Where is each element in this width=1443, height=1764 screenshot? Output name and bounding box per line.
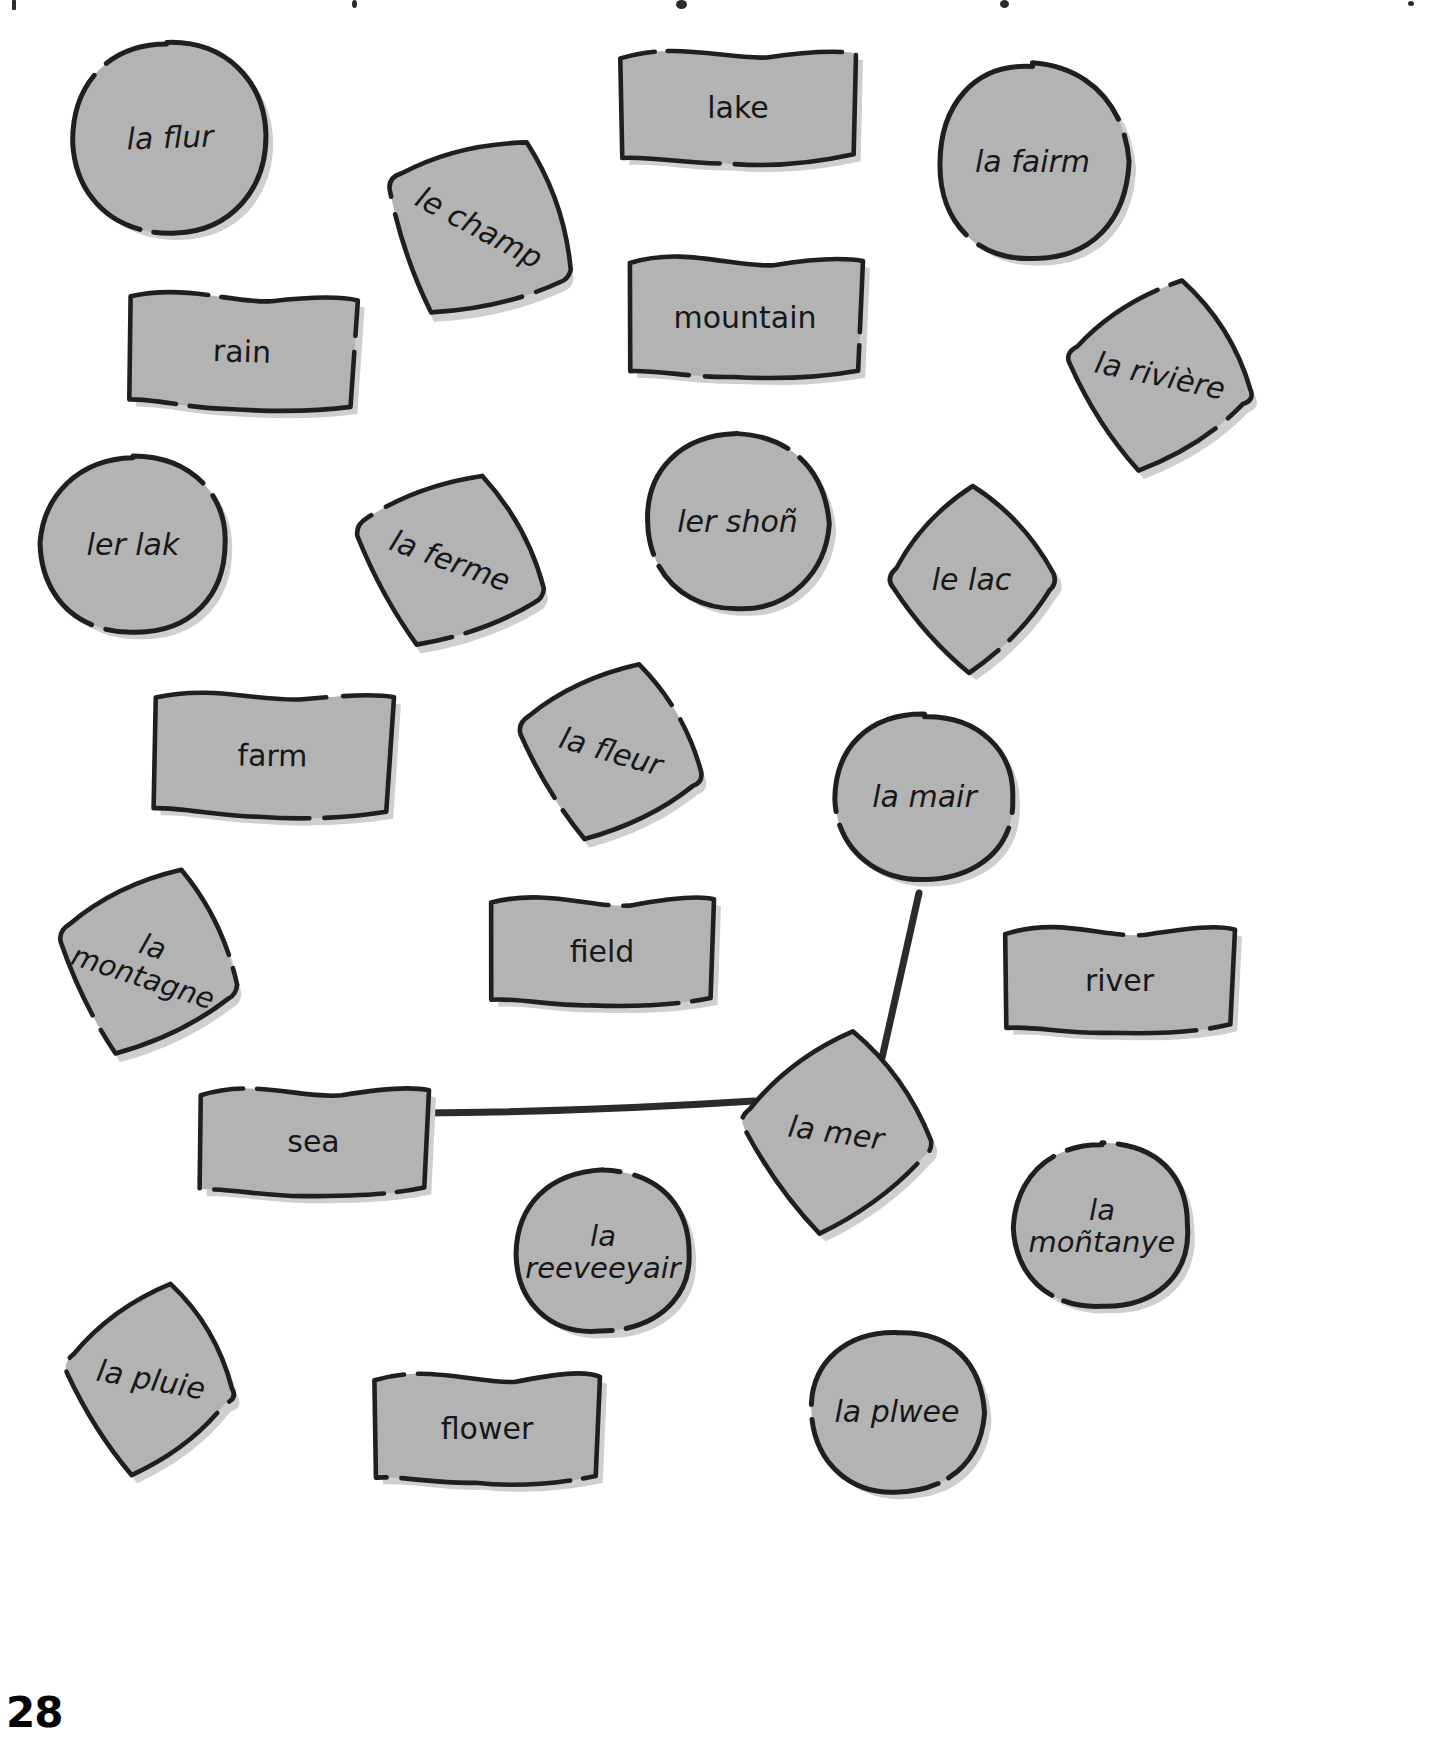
word-card[interactable]: la pluie xyxy=(44,1266,258,1495)
card-fill xyxy=(890,486,1055,673)
word-card[interactable]: rain xyxy=(124,284,360,420)
word-card[interactable]: field xyxy=(488,892,716,1012)
card-shape-flag xyxy=(180,1066,447,1218)
connection-line[interactable] xyxy=(420,1101,754,1113)
word-card[interactable]: le lac xyxy=(884,484,1059,676)
card-shape-diamond xyxy=(704,997,967,1269)
word-card[interactable]: la fairm xyxy=(935,62,1130,262)
card-fill xyxy=(153,692,394,821)
card-shape-flag xyxy=(602,29,874,186)
card-shape-flag xyxy=(609,236,881,400)
card-fill xyxy=(630,257,863,378)
card-shape-circle xyxy=(629,416,846,628)
card-shape-circle xyxy=(996,1126,1208,1326)
card-fill xyxy=(728,1018,945,1248)
word-card[interactable]: ler shoñ xyxy=(645,432,830,612)
card-shape-circle xyxy=(496,1152,710,1352)
word-card[interactable]: la flur xyxy=(67,37,274,239)
word-card[interactable]: la mer xyxy=(722,1015,949,1251)
word-card[interactable]: la moñtanye xyxy=(1012,1142,1192,1310)
word-card[interactable]: la montagne xyxy=(26,837,270,1087)
card-fill xyxy=(345,95,614,362)
card-shape-flag xyxy=(133,670,413,842)
card-shape-flag xyxy=(356,1352,618,1506)
page-number: 28 xyxy=(6,1688,62,1737)
word-card[interactable]: flower xyxy=(372,1368,602,1490)
word-card[interactable]: la plwee xyxy=(808,1328,986,1496)
card-shape-diamond xyxy=(25,1247,276,1513)
card-shape-circle xyxy=(816,696,1033,898)
card-fill xyxy=(49,1269,251,1491)
card-fill xyxy=(1048,261,1272,491)
word-card[interactable]: mountain xyxy=(625,252,865,384)
word-card[interactable]: sea xyxy=(196,1082,431,1202)
word-card[interactable]: farm xyxy=(149,686,396,825)
card-shape-circle xyxy=(50,20,290,255)
word-card[interactable]: le champ xyxy=(339,90,618,365)
card-shape-flag xyxy=(107,267,376,436)
card-fill xyxy=(200,1088,429,1196)
card-shape-diamond xyxy=(6,817,291,1107)
word-card[interactable]: river xyxy=(1002,922,1237,1040)
card-fill xyxy=(127,291,358,414)
word-card[interactable]: la mair xyxy=(832,712,1017,882)
card-shape-circle xyxy=(22,439,244,651)
card-shape-flag xyxy=(472,876,732,1028)
word-card[interactable]: la reeveeyair xyxy=(512,1168,694,1336)
word-card[interactable]: ler lak xyxy=(38,455,228,635)
card-shape-flag xyxy=(986,906,1253,1056)
card-fill xyxy=(374,1373,600,1484)
word-card[interactable]: la rivière xyxy=(1041,257,1278,494)
card-shape-diamond xyxy=(868,468,1075,692)
card-fill xyxy=(620,51,856,165)
word-card[interactable]: lake xyxy=(618,45,858,170)
worksheet-canvas: la flurlakela fairmle champrainmountainl… xyxy=(0,0,1443,1764)
word-card[interactable]: la fleur xyxy=(490,634,732,869)
card-fill xyxy=(491,897,714,1006)
card-shape-circle xyxy=(792,1312,1002,1512)
card-shape-circle xyxy=(919,46,1146,278)
card-fill xyxy=(1005,927,1235,1033)
cut-off-text-above xyxy=(0,0,1443,10)
